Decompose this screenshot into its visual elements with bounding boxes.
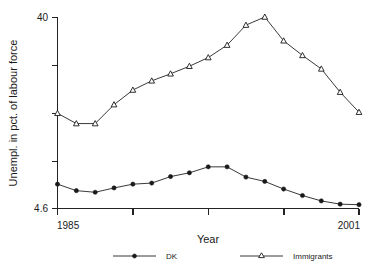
data-point-marker-dk: [357, 203, 361, 207]
data-point-marker-dk: [338, 202, 342, 206]
chart-figure: 40 4.6 1985 2001 Year Unempl. in pct. of…: [0, 0, 377, 269]
data-point-marker-dk: [74, 189, 78, 193]
data-point-marker-dk: [93, 190, 97, 194]
unemployment-line-chart: 40 4.6 1985 2001 Year Unempl. in pct. of…: [0, 0, 377, 269]
data-point-marker-dk: [55, 182, 59, 186]
data-point-marker-dk: [319, 199, 323, 203]
data-point-marker-dk: [168, 174, 172, 178]
data-point-marker-dk: [300, 193, 304, 197]
y-tick-label-top: 40: [37, 12, 49, 23]
x-axis-title: Year: [197, 233, 220, 245]
y-axis-title: Unempl. in pct. of labour force: [7, 40, 19, 187]
data-point-marker-dk: [131, 182, 135, 186]
data-point-marker-dk: [187, 171, 191, 175]
data-point-marker-dk: [263, 179, 267, 183]
legend-label-dk: DK: [166, 252, 178, 261]
data-point-marker-dk: [282, 187, 286, 191]
data-point-marker-dk: [225, 165, 229, 169]
data-point-marker-dk: [150, 181, 154, 185]
legend-label-immigrants: Immigrants: [293, 252, 333, 261]
x-tick-label-end: 2001: [338, 220, 361, 231]
data-point-marker-dk: [112, 186, 116, 190]
filled-circle-marker: [133, 254, 137, 258]
data-point-marker-dk: [206, 165, 210, 169]
y-tick-label-bottom: 4.6: [34, 203, 48, 214]
data-point-marker-dk: [244, 175, 248, 179]
x-tick-label-start: 1985: [57, 220, 80, 231]
